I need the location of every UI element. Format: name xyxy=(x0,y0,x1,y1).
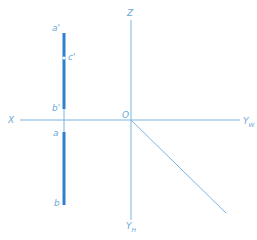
point-c-prime-label: c' xyxy=(68,53,75,62)
point-a-label: a xyxy=(53,129,59,138)
point-b-prime-label: b' xyxy=(52,104,60,113)
diagonal-45-line xyxy=(131,120,226,213)
point-c-prime-marker xyxy=(62,56,65,59)
origin-label: O xyxy=(122,111,129,120)
x-axis-label: X xyxy=(8,116,14,125)
yh-axis-label: YH xyxy=(126,222,136,233)
z-axis-label: Z xyxy=(127,9,133,18)
point-b-label: b xyxy=(54,199,60,208)
projection-diagram xyxy=(0,0,257,240)
point-a-prime-label: a' xyxy=(52,24,60,33)
yw-axis-label: YW xyxy=(243,117,254,128)
